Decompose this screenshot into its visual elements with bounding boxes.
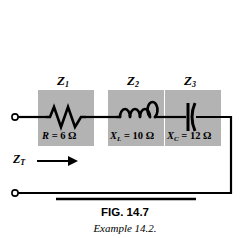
block-label-z1: Z1 <box>57 74 69 87</box>
top-left-terminal[interactable] <box>12 114 18 120</box>
figure-container: Z1 Z2 Z3 R = 6 Ω XL = 10 Ω XC = 12 Ω ZT … <box>0 0 250 238</box>
block-label-z2: Z2 <box>127 74 139 87</box>
value-label-z1: R = 6 Ω <box>42 131 77 142</box>
value-label-z2: XL = 10 Ω <box>110 131 154 142</box>
figure-caption-subtitle: Example 14.2. <box>0 222 250 234</box>
block-label-z3: Z3 <box>184 74 196 87</box>
circuit-diagram <box>0 0 250 238</box>
total-impedance-label: ZT <box>13 153 25 165</box>
value-label-z3: XC = 12 Ω <box>167 131 211 142</box>
figure-caption-title: FIG. 14.7 <box>0 206 250 218</box>
total-impedance-arrow-icon <box>37 156 78 166</box>
bottom-left-terminal[interactable] <box>12 190 18 196</box>
